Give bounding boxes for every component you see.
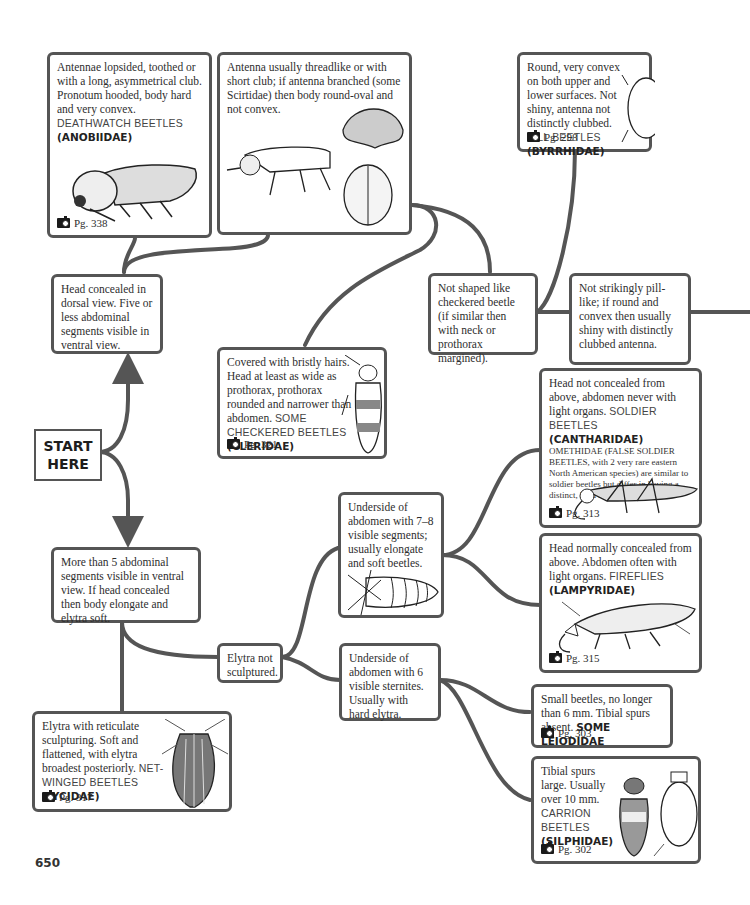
page-ref-text: Pg. 321 bbox=[244, 437, 278, 451]
common-name: CARRION BEETLES bbox=[541, 807, 591, 833]
node-head-concealed[interactable]: Head concealed in dorsal view. Five or l… bbox=[51, 274, 163, 354]
node-6-sternites[interactable]: Underside of abdomen with 6 visible ster… bbox=[339, 643, 441, 721]
family-name: (BYRRHIDAE) bbox=[527, 144, 622, 158]
node-text: Underside of abdomen with 7–8 visible se… bbox=[348, 501, 434, 569]
start-line2: HERE bbox=[47, 455, 89, 473]
node-more-than-5-segments[interactable]: More than 5 abdominal segments visible i… bbox=[51, 547, 201, 623]
camera-icon bbox=[549, 653, 562, 663]
node-text: Tibial spurs large. Usually over 10 mm. bbox=[541, 765, 605, 805]
node-text: Elytra not sculptured. bbox=[227, 652, 278, 678]
node-cantharidae[interactable]: Head not concealed from above, abdomen n… bbox=[539, 368, 702, 528]
node-text: Head concealed in dorsal view. Five or l… bbox=[61, 283, 152, 351]
camera-icon bbox=[541, 844, 554, 854]
deathwatch-beetle-illustration bbox=[60, 155, 205, 225]
node-lampyridae[interactable]: Head normally concealed from above. Abdo… bbox=[539, 533, 702, 673]
page-ref-text: Pg. 302 bbox=[558, 842, 592, 856]
firefly-illustration bbox=[550, 594, 700, 654]
page-ref-text: Pg. 298 bbox=[544, 130, 578, 144]
node-not-checkered[interactable]: Not shaped like checkered beetle (if sim… bbox=[428, 273, 538, 355]
node-text: Antennae lopsided, toothed or with a lon… bbox=[57, 61, 202, 115]
node-lycidae[interactable]: Elytra with reticulate sculpturing. Soft… bbox=[32, 711, 232, 812]
three-beetles-illustration bbox=[225, 100, 410, 230]
common-name: DEATHWATCH BEETLES bbox=[57, 117, 183, 129]
page-reference[interactable]: Pg. 298 bbox=[527, 130, 578, 144]
camera-icon bbox=[541, 728, 554, 738]
node-elytra-not-sculptured[interactable]: Elytra not sculptured. bbox=[217, 643, 283, 683]
node-text: More than 5 abdominal segments visible i… bbox=[61, 556, 184, 624]
page-reference[interactable]: Pg. 321 bbox=[227, 437, 278, 451]
camera-icon bbox=[549, 508, 562, 518]
camera-icon bbox=[527, 132, 540, 142]
node-text: Not strikingly pill-like; if round and c… bbox=[579, 282, 673, 350]
start-here-label: START HERE bbox=[34, 429, 102, 481]
node-byrrhidae[interactable]: Round, very convex on both upper and low… bbox=[517, 52, 652, 152]
net-winged-beetle-illustration bbox=[160, 719, 230, 811]
abdomen-underside-illustration bbox=[346, 570, 441, 615]
node-leiodidae[interactable]: Small beetles, no longer than 6 mm. Tibi… bbox=[531, 684, 673, 748]
node-text: Elytra with reticulate sculpturing. Soft… bbox=[42, 720, 139, 774]
page-reference[interactable]: Pg. 303 bbox=[541, 726, 592, 740]
node-silphidae[interactable]: Tibial spurs large. Usually over 10 mm. … bbox=[531, 756, 701, 864]
pill-beetle-illustration bbox=[620, 60, 655, 150]
page-reference[interactable]: Pg. 302 bbox=[541, 842, 592, 856]
family-name: (CANTHARIDAE) bbox=[549, 433, 643, 445]
page-reference[interactable]: Pg. 317 bbox=[42, 790, 93, 804]
node-cleridae[interactable]: Covered with bristly hairs. Head at leas… bbox=[217, 347, 387, 459]
common-name: FIREFLIES bbox=[609, 570, 664, 582]
page-ref-text: Pg. 317 bbox=[59, 790, 93, 804]
node-text: Underside of abdomen with 6 visible ster… bbox=[349, 652, 424, 720]
page-ref-text: Pg. 303 bbox=[558, 726, 592, 740]
node-text: Round, very convex on both upper and low… bbox=[527, 61, 620, 129]
family-name: (ANOBIIDAE) bbox=[57, 130, 202, 144]
camera-icon bbox=[42, 792, 55, 802]
start-line1: START bbox=[43, 437, 92, 455]
carrion-beetles-illustration bbox=[609, 764, 701, 862]
checkered-beetle-illustration bbox=[340, 355, 388, 455]
soldier-beetle-illustration bbox=[567, 471, 702, 521]
node-not-pill-like[interactable]: Not strikingly pill-like; if round and c… bbox=[569, 273, 691, 365]
node-anobiidae[interactable]: Antennae lopsided, toothed or with a lon… bbox=[47, 52, 212, 238]
node-text: Not shaped like checkered beetle (if sim… bbox=[438, 282, 515, 364]
node-threadlike-antenna[interactable]: Antenna usually threadlike or with short… bbox=[217, 52, 412, 235]
camera-icon bbox=[227, 439, 240, 449]
node-7-8-segments[interactable]: Underside of abdomen with 7–8 visible se… bbox=[338, 492, 444, 618]
